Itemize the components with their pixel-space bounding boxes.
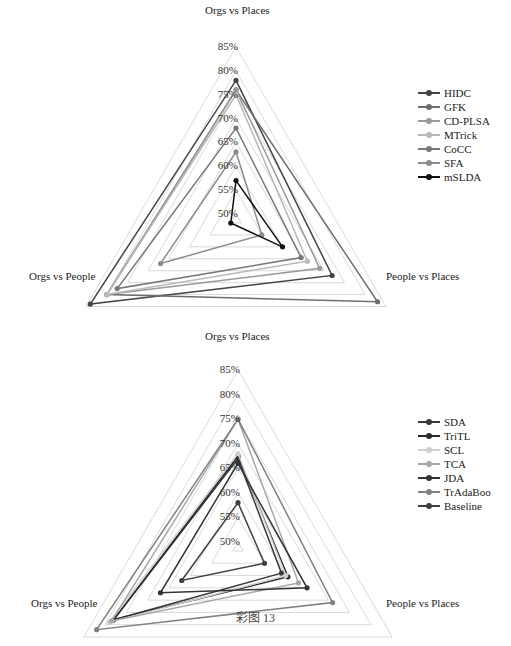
data-point	[158, 261, 163, 266]
legend-label: SFA	[444, 157, 463, 169]
data-point	[296, 580, 301, 585]
legend-label: TriTL	[444, 430, 471, 442]
legend-label: HIDC	[444, 87, 471, 99]
legend-marker-icon	[418, 101, 440, 113]
legend-item: SFA	[418, 156, 490, 170]
tick-label: 55%	[218, 183, 238, 195]
data-point	[280, 244, 285, 249]
data-point	[228, 220, 233, 225]
legend-marker-icon	[418, 115, 440, 127]
grid-ring	[86, 47, 386, 307]
tick-label: 85%	[220, 363, 240, 375]
tick-label: 80%	[220, 388, 240, 400]
legend-item: SDA	[418, 415, 491, 429]
legend-label: MTrick	[444, 129, 477, 141]
legend-marker-icon	[418, 444, 440, 456]
tick-label: 60%	[220, 486, 240, 498]
axis-label-left: Orgs vs People	[29, 270, 95, 282]
tick-label: 70%	[220, 437, 240, 449]
legend-label: Baseline	[444, 500, 482, 512]
legend-label: TrAdaBoo	[444, 486, 491, 498]
radar-chart-top: Orgs vs Places People vs Places Orgs vs …	[0, 0, 511, 320]
axis-label-top: Orgs vs Places	[205, 4, 270, 16]
legend-marker-icon	[418, 129, 440, 141]
legend-label: CD-PLSA	[444, 115, 490, 127]
legend-item: Baseline	[418, 499, 491, 513]
legend-item: CoCC	[418, 142, 490, 156]
legend-marker-icon	[418, 171, 440, 183]
legend-label: mSLDA	[444, 171, 481, 183]
tick-label: 60%	[218, 159, 238, 171]
legend-marker-icon	[418, 157, 440, 169]
legend-label: CoCC	[444, 143, 472, 155]
data-point	[299, 255, 304, 260]
data-point	[88, 302, 93, 307]
legend-label: TCA	[444, 458, 466, 470]
radar-chart-bottom: Orgs vs Places People vs Places Orgs vs …	[0, 320, 511, 610]
legend-item: MTrick	[418, 128, 490, 142]
legend-item: TriTL	[418, 429, 491, 443]
legend-item: mSLDA	[418, 170, 490, 184]
legend-label: SDA	[444, 416, 466, 428]
data-point	[233, 149, 238, 154]
legend-label: JDA	[444, 472, 464, 484]
legend-marker-icon	[418, 458, 440, 470]
data-point	[235, 451, 240, 456]
series-tradaboo	[97, 419, 333, 629]
legend-marker-icon	[418, 500, 440, 512]
data-point	[283, 573, 288, 578]
tick-label: 50%	[220, 535, 240, 547]
data-point	[305, 259, 310, 264]
legend-marker-icon	[418, 416, 440, 428]
legend-marker-icon	[418, 87, 440, 99]
legend-item: HIDC	[418, 86, 490, 100]
data-point	[330, 600, 335, 605]
tick-label: 75%	[218, 88, 238, 100]
tick-label: 55%	[220, 510, 240, 522]
legend-label: GFK	[444, 101, 466, 113]
axis-label-right: People vs Places	[386, 270, 459, 282]
tick-label: 75%	[220, 412, 240, 424]
data-point	[115, 286, 120, 291]
axis-label-top: Orgs vs Places	[205, 330, 270, 342]
legend-marker-icon	[418, 472, 440, 484]
tick-label: 80%	[218, 64, 238, 76]
data-point	[375, 299, 380, 304]
legend-item: SCL	[418, 443, 491, 457]
legend-item: JDA	[418, 471, 491, 485]
data-point	[158, 590, 163, 595]
tick-label: 65%	[218, 135, 238, 147]
legend-label: SCL	[444, 444, 464, 456]
data-point	[233, 78, 238, 83]
legend-item: CD-PLSA	[418, 114, 490, 128]
tick-label: 50%	[218, 207, 238, 219]
tick-label: 85%	[218, 40, 238, 52]
data-point	[317, 266, 322, 271]
data-point	[262, 561, 267, 566]
legend-item: TCA	[418, 457, 491, 471]
legend-bottom: SDATriTLSCLTCAJDATrAdaBooBaseline	[418, 415, 491, 513]
data-point	[104, 292, 109, 297]
data-point	[235, 500, 240, 505]
legend-marker-icon	[418, 430, 440, 442]
data-point	[179, 578, 184, 583]
legend-item: GFK	[418, 100, 490, 114]
data-point	[94, 627, 99, 632]
legend-item: TrAdaBoo	[418, 485, 491, 499]
data-point	[330, 273, 335, 278]
data-point	[233, 126, 238, 131]
tick-label: 65%	[220, 461, 240, 473]
legend-marker-icon	[418, 143, 440, 155]
tick-label: 70%	[218, 112, 238, 124]
data-point	[304, 585, 309, 590]
legend-marker-icon	[418, 486, 440, 498]
figure-caption: 彩图 13	[0, 608, 511, 626]
legend-top: HIDCGFKCD-PLSAMTrickCoCCSFAmSLDA	[418, 86, 490, 184]
